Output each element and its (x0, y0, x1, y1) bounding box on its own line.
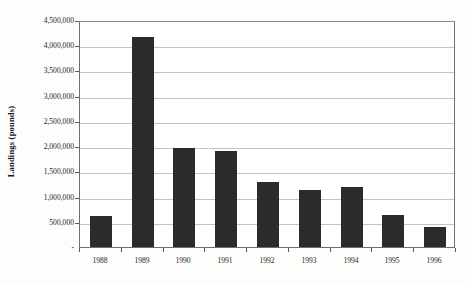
y-axis-tick-label: 3,500,000 (20, 67, 74, 75)
y-axis-title: Landings (pounds) (0, 0, 22, 283)
bar-1988 (90, 216, 112, 247)
y-axis-tick-label: 1,000,000 (20, 194, 74, 202)
bar-1992 (257, 182, 279, 247)
x-axis-tick-mark (204, 248, 205, 252)
x-axis-tick-mark (371, 248, 372, 252)
x-axis-tick-label: 1988 (79, 256, 121, 265)
x-axis-tick-mark (163, 248, 164, 252)
y-axis-tick-label: - (20, 244, 74, 252)
x-axis-tick-mark (121, 248, 122, 252)
y-axis-tick-label: 4,500,000 (20, 17, 74, 25)
y-axis-tick-label: 4,000,000 (20, 42, 74, 50)
x-axis-tick-mark (455, 248, 456, 252)
x-axis-tick-mark (413, 248, 414, 252)
x-axis-tick-label: 1993 (288, 256, 330, 265)
x-axis-tick-label: 1992 (246, 256, 288, 265)
y-axis-tick-label: 500,000 (20, 219, 74, 227)
x-axis-tick-mark (288, 248, 289, 252)
y-axis-tick-label: 2,500,000 (20, 118, 74, 126)
bar-chart-figure: Landings (pounds) -500,0001,000,0001,500… (0, 0, 471, 283)
x-axis-tick-mark (330, 248, 331, 252)
x-axis-tick-label: 1996 (413, 256, 455, 265)
x-axis-tick-label: 1995 (371, 256, 413, 265)
bar-1991 (215, 151, 237, 247)
x-axis-tick-mark (246, 248, 247, 252)
bar-1990 (173, 148, 195, 247)
bar-1996 (424, 227, 446, 247)
x-axis-tick-label: 1994 (330, 256, 372, 265)
x-axis-tick-mark (79, 248, 80, 252)
x-axis-tick-label: 1990 (162, 256, 204, 265)
bar-1993 (299, 190, 321, 247)
x-axis-tick-label: 1989 (121, 256, 163, 265)
y-axis-tick-label: 3,000,000 (20, 93, 74, 101)
bar-1995 (382, 215, 404, 247)
bar-1989 (132, 37, 154, 247)
bar-1994 (341, 187, 363, 247)
y-axis-tick-label: 2,000,000 (20, 143, 74, 151)
y-axis-tick-label: 1,500,000 (20, 168, 74, 176)
plot-area (79, 21, 455, 248)
x-axis-tick-label: 1991 (204, 256, 246, 265)
